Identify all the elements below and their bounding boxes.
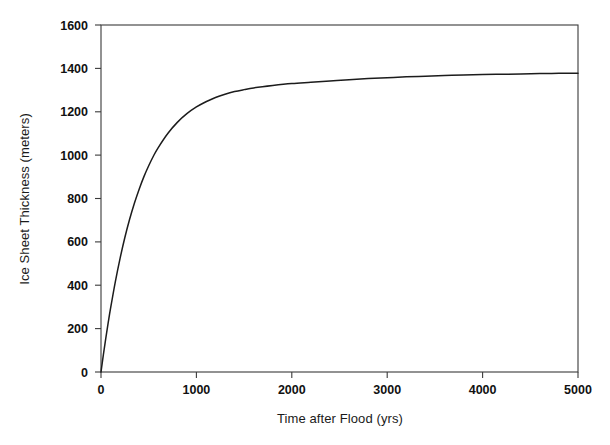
y-tick-label: 200: [67, 322, 88, 336]
x-tick-label: 4000: [469, 383, 497, 397]
x-tick-label: 3000: [373, 383, 401, 397]
x-tick-label: 2000: [278, 383, 306, 397]
y-tick-label: 400: [67, 279, 88, 293]
y-tick-label: 0: [81, 366, 88, 380]
chart-figure: 0 200 400 600 800 1000 1200 1400 1600 0 …: [0, 0, 610, 445]
y-tick-label: 1000: [60, 149, 88, 163]
x-tick-label: 1000: [182, 383, 210, 397]
line-chart-svg: 0 200 400 600 800 1000 1200 1400 1600 0 …: [0, 0, 610, 445]
x-tick-label: 5000: [564, 383, 592, 397]
chart-background: [0, 0, 610, 445]
y-axis-title: Ice Sheet Thickness (meters): [17, 113, 32, 285]
y-tick-label: 1200: [60, 105, 88, 119]
x-axis-title: Time after Flood (yrs): [277, 411, 403, 426]
x-tick-label: 0: [98, 383, 105, 397]
y-tick-label: 800: [67, 192, 88, 206]
y-tick-label: 1400: [60, 62, 88, 76]
y-tick-label: 600: [67, 235, 88, 249]
y-tick-label: 1600: [60, 19, 88, 33]
